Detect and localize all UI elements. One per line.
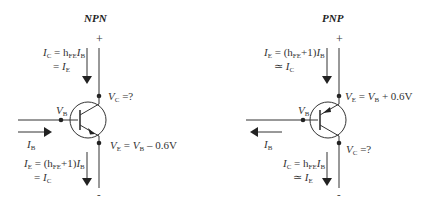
pnp-vc-label: VC =?: [346, 143, 371, 159]
pnp-plus-terminal: +: [336, 33, 343, 45]
npn-vc-label: VC =?: [108, 90, 133, 106]
npn-minus-terminal: -: [97, 188, 101, 200]
npn-plus-terminal: +: [96, 33, 103, 45]
npn-vb-label: VB: [56, 104, 67, 120]
pnp-title: PNP: [322, 12, 343, 24]
npn-ib-label: IB: [27, 138, 35, 154]
pnp-ve-equation: VE = VB + 0.6V: [345, 90, 413, 106]
npn-title: NPN: [84, 12, 107, 24]
npn-ve-equation: VE = VB – 0.6V: [110, 139, 177, 155]
pnp-ic-approx: ≃ IE: [293, 171, 313, 187]
pnp-ib-label: IB: [264, 138, 272, 154]
pnp-vb-label: VB: [298, 104, 309, 120]
npn-ic-approx: = IE: [53, 60, 70, 76]
npn-ie-approx: = IC: [34, 171, 51, 187]
pnp-minus-terminal: -: [337, 188, 341, 200]
pnp-ie-approx: ≃ IC: [274, 60, 294, 76]
